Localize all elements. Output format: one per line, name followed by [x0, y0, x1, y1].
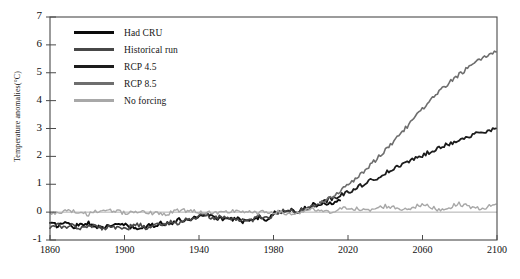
legend-label: RCP 8.5 [124, 79, 157, 89]
legend-item: No forcing [74, 92, 178, 109]
legend-label: Had CRU [124, 28, 162, 38]
legend-swatch [74, 31, 114, 34]
series-line-rcp-8-5 [320, 51, 496, 204]
legend-swatch [74, 99, 114, 102]
chart-legend: Had CRUHistorical runRCP 4.5RCP 8.5No fo… [74, 24, 178, 109]
legend-label: Historical run [124, 45, 178, 55]
legend-item: Had CRU [74, 24, 178, 41]
legend-item: RCP 8.5 [74, 75, 178, 92]
legend-swatch [74, 82, 114, 85]
series-line-historical-run [50, 204, 318, 230]
legend-item: RCP 4.5 [74, 58, 178, 75]
climate-anomaly-chart: Temperature anomalies(°C) 76543210-1 186… [0, 0, 520, 279]
legend-swatch [74, 48, 114, 51]
legend-swatch [74, 65, 114, 68]
legend-label: No forcing [124, 96, 166, 106]
legend-item: Historical run [74, 41, 178, 58]
series-line-no-forcing [50, 202, 496, 216]
legend-label: RCP 4.5 [124, 62, 157, 72]
series-line-rcp-4-5 [320, 128, 496, 203]
